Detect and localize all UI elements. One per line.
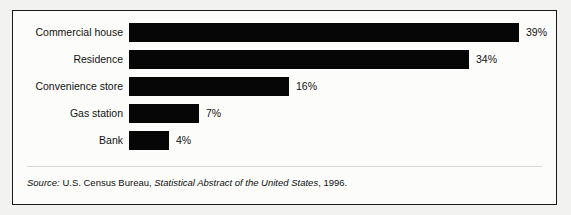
source-publisher: U.S. Census Bureau, bbox=[60, 177, 155, 188]
source-note: Source: U.S. Census Bureau, Statistical … bbox=[27, 177, 542, 188]
bar-value-label: 39% bbox=[526, 23, 547, 42]
source-year: , 1996. bbox=[318, 177, 347, 188]
bar-track: 16% bbox=[129, 77, 556, 96]
bar bbox=[129, 23, 519, 42]
bar-value-label: 4% bbox=[176, 131, 191, 150]
bar-value-label: 34% bbox=[476, 50, 497, 69]
bar-row: Residence34% bbox=[13, 50, 556, 69]
bar-track: 39% bbox=[129, 23, 556, 42]
bar-row: Gas station7% bbox=[13, 104, 556, 123]
bar-row: Commercial house39% bbox=[13, 23, 556, 42]
bar-value-label: 16% bbox=[296, 77, 317, 96]
bar bbox=[129, 104, 199, 123]
bar-row: Convenience store16% bbox=[13, 77, 556, 96]
bar-track: 7% bbox=[129, 104, 556, 123]
bar-value-label: 7% bbox=[206, 104, 221, 123]
bar-category-label: Gas station bbox=[13, 104, 123, 123]
bar-category-label: Convenience store bbox=[13, 77, 123, 96]
bar bbox=[129, 77, 289, 96]
bar-track: 34% bbox=[129, 50, 556, 69]
bar bbox=[129, 50, 469, 69]
bar-category-label: Commercial house bbox=[13, 23, 123, 42]
source-publication: Statistical Abstract of the United State… bbox=[154, 177, 318, 188]
bar-category-label: Bank bbox=[13, 131, 123, 150]
bar-chart-plot: Commercial house39%Residence34%Convenien… bbox=[13, 11, 556, 159]
bar bbox=[129, 131, 169, 150]
source-divider bbox=[27, 166, 542, 167]
source-prefix: Source: bbox=[27, 177, 60, 188]
chart-figure: Commercial house39%Residence34%Convenien… bbox=[12, 10, 557, 205]
bar-track: 4% bbox=[129, 131, 556, 150]
bar-row: Bank4% bbox=[13, 131, 556, 150]
bar-category-label: Residence bbox=[13, 50, 123, 69]
